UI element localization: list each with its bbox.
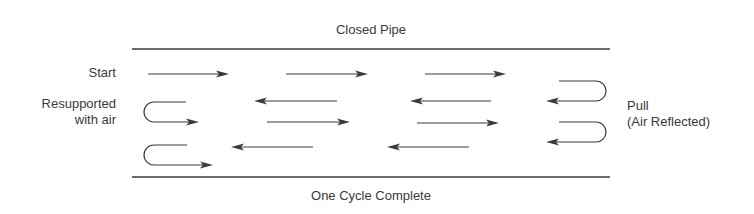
u-turn-arrow-icon bbox=[554, 122, 606, 142]
pipe-drawing bbox=[0, 0, 754, 214]
u-turn-arrow-icon bbox=[554, 81, 606, 101]
u-turn-arrow-icon bbox=[144, 102, 191, 122]
u-turn-arrow-icon bbox=[144, 145, 205, 165]
